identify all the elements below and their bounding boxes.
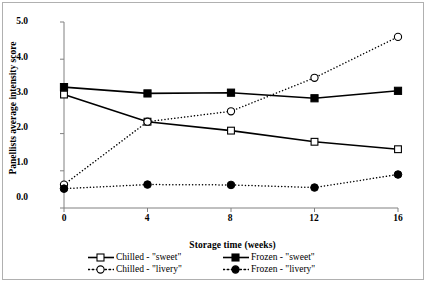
x-axis-title-container: Storage time (weeks) [60, 234, 405, 252]
data-point-marker [144, 90, 151, 97]
data-point-marker [311, 138, 318, 145]
chart-figure: Panellists average intensity score Stora… [0, 0, 426, 282]
legend-key-open-circle-dotted [88, 264, 114, 275]
legend-key-open-square-solid [88, 252, 114, 263]
data-point-marker [227, 89, 234, 96]
data-point-marker [395, 146, 402, 153]
data-point-marker [228, 127, 235, 134]
data-point-marker [144, 118, 151, 125]
y-tick-label-3: 3.0 [2, 87, 28, 97]
legend-item-frozen-livery[interactable]: Frozen - "livery" [223, 264, 358, 275]
x-tick-label-4: 4 [132, 213, 162, 223]
x-tick-label-0: 0 [49, 213, 79, 223]
data-point-marker [60, 84, 67, 91]
x-tick-label-12: 12 [299, 213, 329, 223]
legend-item-chilled-sweet[interactable]: Chilled - "sweet" [88, 252, 223, 263]
y-tick-label-4: 4.0 [2, 52, 28, 62]
legend-label: Frozen - "sweet" [251, 252, 315, 263]
x-axis-title: Storage time (weeks) [189, 240, 275, 250]
data-point-marker [394, 171, 402, 179]
data-point-marker [311, 184, 319, 192]
data-point-marker [227, 181, 235, 189]
data-point-marker [61, 91, 68, 98]
legend-item-frozen-sweet[interactable]: Frozen - "sweet" [223, 252, 358, 263]
data-point-marker [60, 185, 68, 193]
data-point-marker [394, 33, 401, 40]
data-point-marker [311, 74, 318, 81]
legend-label: Chilled - "livery" [116, 264, 182, 275]
y-tick-label-1: 1.0 [2, 157, 28, 167]
x-tick-label-8: 8 [215, 213, 245, 223]
legend-key-filled-square-solid [223, 252, 249, 263]
x-tick-label-16: 16 [383, 213, 413, 223]
data-point-marker [311, 95, 318, 102]
chart-legend: Chilled - "sweet" Frozen - "sweet" Chill… [88, 251, 358, 275]
data-point-marker [394, 87, 401, 94]
legend-item-chilled-livery[interactable]: Chilled - "livery" [88, 264, 223, 275]
data-point-marker [227, 108, 234, 115]
series-line-0 [64, 95, 398, 150]
y-tick-label-2: 2.0 [2, 122, 28, 132]
legend-key-filled-circle-dotted [223, 264, 249, 275]
data-point-marker [144, 181, 152, 189]
legend-label: Frozen - "livery" [251, 264, 315, 275]
legend-label: Chilled - "sweet" [116, 252, 181, 263]
y-tick-label-0: 0.0 [2, 192, 28, 202]
y-tick-label-5: 5.0 [2, 16, 28, 26]
